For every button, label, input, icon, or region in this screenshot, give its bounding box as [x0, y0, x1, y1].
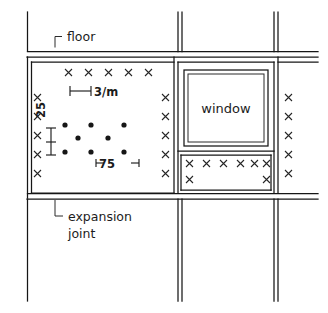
floor-label: floor: [67, 29, 96, 44]
panel-right-x-markers: [162, 94, 169, 177]
dimension-25: [46, 128, 56, 155]
spacing-3m-label: 3/m: [94, 85, 118, 99]
expansion-joint-leader-line: [55, 200, 63, 216]
expansion-joint-label-line1: expansion: [68, 209, 132, 224]
panel-top-x-markers: [65, 69, 152, 76]
fixing-dot-grid: [62, 122, 126, 154]
fixing-dot: [105, 135, 110, 140]
sill-lower-x-markers: [186, 176, 270, 183]
dimension-3-per-m: [70, 86, 91, 96]
fixing-dot: [88, 149, 93, 154]
drawing-canvas: floor 3/m 25 75 window expansion joint: [0, 0, 328, 313]
expansion-joint-leader: [55, 200, 63, 216]
fixing-dot: [121, 122, 126, 127]
spacing-75-label: 75: [99, 157, 115, 171]
fixing-dot: [62, 122, 67, 127]
far-right-x-markers: [285, 94, 292, 177]
window-label: window: [201, 101, 251, 116]
fixing-dot: [62, 149, 67, 154]
fixing-dot: [121, 149, 126, 154]
floor-leader: [55, 37, 62, 48]
sill-x-markers: [186, 160, 270, 167]
expansion-joint-label-line2: joint: [67, 226, 96, 241]
fixing-dot: [88, 122, 93, 127]
floor-leader-line: [55, 37, 62, 48]
middle-storey-group: [27, 57, 318, 198]
fixing-dot: [75, 135, 80, 140]
spacing-25-label: 25: [34, 102, 48, 118]
technical-drawing: floor 3/m 25 75 window expansion joint: [0, 0, 328, 313]
